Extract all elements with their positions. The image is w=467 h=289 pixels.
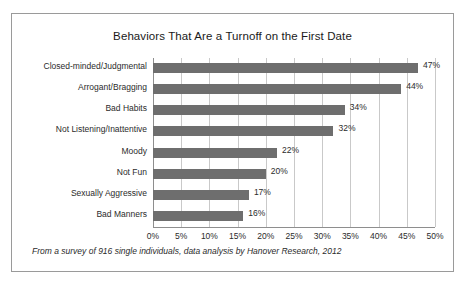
chart-figure: Behaviors That Are a Turnoff on the Firs… xyxy=(11,13,454,272)
category-label: Not Fun xyxy=(117,167,147,177)
bar-value-label: 34% xyxy=(350,102,367,112)
bar xyxy=(153,211,243,221)
bar-value-label: 20% xyxy=(271,166,288,176)
category-label: Moody xyxy=(121,146,147,156)
bar-row: Sexually Aggressive17% xyxy=(153,185,435,206)
bar-row: Moody22% xyxy=(153,143,435,164)
x-tick-label: 30% xyxy=(314,231,331,241)
chart-title: Behaviors That Are a Turnoff on the Firs… xyxy=(12,30,453,42)
category-label: Sexually Aggressive xyxy=(71,188,147,198)
bar-value-label: 22% xyxy=(282,145,299,155)
x-tick-label: 50% xyxy=(426,231,443,241)
chart-footnote: From a survey of 916 single individuals,… xyxy=(32,246,341,256)
bar-row: Closed-minded/Judgmental47% xyxy=(153,58,435,79)
bar xyxy=(153,105,345,115)
bar-row: Not Listening/Inattentive32% xyxy=(153,121,435,142)
bar-row: Arrogant/Bragging44% xyxy=(153,79,435,100)
x-tick-label: 5% xyxy=(175,231,187,241)
bar xyxy=(153,84,401,94)
bar xyxy=(153,169,266,179)
x-tick-label: 0% xyxy=(147,231,159,241)
x-tick-label: 45% xyxy=(398,231,415,241)
x-tick-label: 40% xyxy=(370,231,387,241)
category-label: Arrogant/Bragging xyxy=(78,82,147,92)
bar-value-label: 17% xyxy=(254,187,271,197)
x-tick-label: 35% xyxy=(342,231,359,241)
x-tick-label: 25% xyxy=(285,231,302,241)
bar-row: Bad Habits34% xyxy=(153,100,435,121)
bar-value-label: 32% xyxy=(338,123,355,133)
category-label: Not Listening/Inattentive xyxy=(56,124,147,134)
x-tick-label: 20% xyxy=(257,231,274,241)
bar-value-label: 16% xyxy=(248,208,265,218)
x-tick-label: 10% xyxy=(201,231,218,241)
category-label: Bad Manners xyxy=(96,209,147,219)
bar xyxy=(153,63,418,73)
bar-row: Bad Manners16% xyxy=(153,206,435,227)
x-tick-label: 15% xyxy=(229,231,246,241)
bar-value-label: 47% xyxy=(423,60,440,70)
plot-area: Closed-minded/Judgmental47%Arrogant/Brag… xyxy=(153,58,435,227)
x-axis-line xyxy=(153,227,435,228)
bar xyxy=(153,148,277,158)
bar-row: Not Fun20% xyxy=(153,164,435,185)
category-label: Bad Habits xyxy=(105,103,147,113)
category-label: Closed-minded/Judgmental xyxy=(44,61,147,71)
bar-value-label: 44% xyxy=(406,81,423,91)
bar xyxy=(153,190,249,200)
gridline-50% xyxy=(435,58,436,227)
bar xyxy=(153,126,333,136)
